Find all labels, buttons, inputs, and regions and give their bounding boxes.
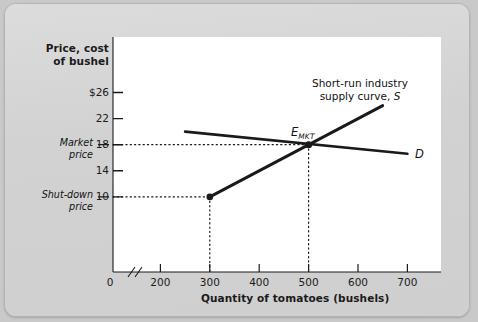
- supply-curve-label-line2: supply curve, S: [295, 90, 425, 103]
- x-tick-label-500: 500: [289, 276, 329, 288]
- y-tick-label-26: $26: [65, 86, 109, 98]
- y-tick-label-22: 22: [65, 112, 109, 124]
- x-axis-title: Quantity of tomatoes (bushels): [201, 292, 451, 305]
- x-tick-label-300: 300: [190, 276, 230, 288]
- market-price-note-line1: Market: [25, 137, 93, 149]
- demand-curve-label: D: [415, 147, 424, 161]
- shut-down-price-note: Shut-down price: [21, 189, 93, 212]
- shut-down-point-marker: [207, 194, 214, 201]
- supply-curve-label: Short-run industry supply curve, S: [295, 77, 425, 103]
- x-tick-label-200: 200: [140, 276, 180, 288]
- equilibrium-label: EMKT: [291, 125, 315, 141]
- supply-curve-label-line2-text: supply curve,: [320, 90, 391, 102]
- market-price-note: Market price: [25, 137, 93, 160]
- x-tick-label-600: 600: [338, 276, 378, 288]
- market-equilibrium-marker: [305, 141, 312, 148]
- equilibrium-label-subscript: MKT: [298, 132, 314, 141]
- x-origin-label: 0: [90, 276, 130, 288]
- supply-curve-label-line1: Short-run industry: [295, 77, 425, 90]
- y-tick-label-14: 14: [65, 164, 109, 176]
- chart-stage: Price, cost of bushel Quantity of tomato…: [5, 4, 469, 316]
- market-price-note-line2: price: [25, 149, 93, 161]
- supply-curve-symbol: S: [394, 90, 401, 102]
- shut-down-price-note-line1: Shut-down: [21, 189, 93, 201]
- x-tick-label-700: 700: [387, 276, 427, 288]
- figure-frame: Price, cost of bushel Quantity of tomato…: [4, 3, 470, 317]
- x-tick-label-400: 400: [239, 276, 279, 288]
- supply-curve: [210, 106, 383, 197]
- shut-down-price-note-line2: price: [21, 201, 93, 213]
- y-axis-title: Price, cost of bushel: [33, 42, 109, 68]
